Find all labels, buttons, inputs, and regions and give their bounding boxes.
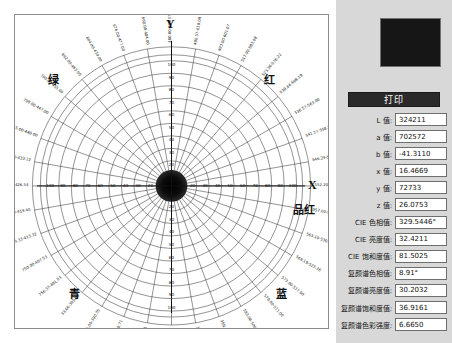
measurement-field-row: y 值:72733	[336, 180, 452, 195]
measurement-field-label: y 值:	[336, 183, 395, 193]
polar-chart-panel: 1020304050607080901001020304050607080901…	[14, 14, 329, 329]
svg-text:530.64-568.19: 530.64-568.19	[279, 72, 304, 94]
svg-text:589.53-500.00: 589.53-500.00	[220, 319, 235, 328]
measurement-field-list: L 值:324211a 值:702572b 值:-41.3110x 值:16.4…	[336, 112, 452, 334]
measurement-field-value[interactable]: 30.2032	[395, 284, 447, 297]
measurement-field-row: z 值:26.0753	[336, 197, 452, 212]
measurement-field-value[interactable]: 324211	[395, 113, 447, 126]
measurement-field-row: 复颜谱色彩强度:6.6650	[336, 317, 452, 332]
measurement-field-label: x 值:	[336, 166, 395, 176]
svg-text:594.67-759.61: 594.67-759.61	[138, 326, 148, 328]
color-swatch	[380, 18, 441, 67]
svg-text:594.00-780.71: 594.00-780.71	[109, 318, 124, 328]
svg-text:536.57-563.00: 536.57-563.00	[293, 96, 321, 115]
measurement-field-label: CIE 饱和度值:	[336, 251, 395, 261]
svg-text:546.29-552.67: 546.29-552.67	[312, 152, 328, 162]
measurement-field-value[interactable]: 81.5025	[395, 250, 447, 263]
svg-text:715.00-440.00: 715.00-440.00	[15, 123, 39, 138]
svg-text:486.57-610.09: 486.57-610.09	[192, 16, 202, 45]
svg-text:541.17-558.25: 541.17-558.25	[305, 123, 328, 138]
svg-text:756.37-401.53: 756.37-401.53	[38, 275, 63, 297]
quadrant-label-magenta: 品红	[293, 201, 315, 217]
measurement-field-value[interactable]: 329.5446°	[395, 216, 447, 229]
svg-text:517.90-583.08: 517.90-583.08	[240, 35, 259, 63]
measurement-field-label: 复颜谱色相值:	[336, 268, 395, 278]
svg-text:743.33-413.32: 743.33-413.32	[15, 231, 38, 246]
svg-text:563.19-530.02: 563.19-530.02	[306, 231, 328, 246]
measurement-field-row: CIE 色相值:329.5446°	[336, 215, 452, 230]
measurement-field-value[interactable]: 72733	[395, 181, 447, 194]
quadrant-label-green: 绿	[48, 71, 59, 87]
measurement-field-label: a 值:	[336, 132, 395, 142]
svg-text:568.19-523.36: 568.19-523.36	[295, 254, 323, 273]
quadrant-label-red: 红	[264, 71, 275, 87]
x-axis-label: X	[308, 178, 317, 193]
measurement-field-value[interactable]: -41.3110	[395, 147, 447, 160]
svg-text:766.00-390.35: 766.00-390.35	[82, 307, 101, 328]
svg-text:722.00-433.12: 722.00-433.12	[15, 152, 32, 162]
measurement-field-value[interactable]: 6.6650	[395, 318, 447, 331]
svg-text:594.67-493.00: 594.67-493.00	[195, 326, 205, 328]
color-analysis-window: 1020304050607080901001020304050607080901…	[0, 0, 452, 343]
measurement-field-row: L 值:324211	[336, 112, 452, 127]
svg-text:668.00-484.00: 668.00-484.00	[141, 16, 151, 45]
measurement-field-row: 复颜谱饱和度值:36.9161	[336, 300, 452, 315]
measurement-field-value[interactable]: 16.4669	[395, 164, 447, 177]
svg-text:750.00-407.53: 750.00-407.53	[21, 254, 49, 273]
quadrant-label-blue: 蓝	[276, 285, 287, 301]
measurement-field-label: CIE 色相值:	[336, 217, 395, 227]
svg-text:493.00-601.07: 493.00-601.07	[217, 23, 232, 52]
measurement-field-label: z 值:	[336, 200, 395, 210]
measurement-field-row: CIE 饱和度值:81.5025	[336, 249, 452, 264]
measurement-field-row: x 值:16.4669	[336, 163, 452, 178]
measurement-field-value[interactable]: 8.91°	[395, 267, 447, 280]
svg-text:692.00-463.00: 692.00-463.00	[60, 52, 82, 77]
measurement-field-row: 复颜谱色相值:8.91°	[336, 266, 452, 281]
svg-text:735.00-419.40: 735.00-419.40	[15, 207, 31, 217]
measurement-field-value[interactable]: 702572	[395, 130, 447, 143]
quadrant-label-cyan: 青	[69, 285, 80, 301]
measurement-field-label: 复颜谱饱和度值:	[336, 303, 395, 313]
measurement-field-label: 复颜谱亮度值:	[336, 285, 395, 295]
measurement-field-row: 复颜谱亮度值:30.2032	[336, 283, 452, 298]
polar-chart-svg: 1020304050607080901001020304050607080901…	[15, 15, 328, 328]
measurement-field-row: b 值:-41.3110	[336, 146, 452, 161]
svg-text:583.08-506.00: 583.08-506.00	[242, 308, 261, 328]
measurement-field-label: 复颜谱色彩强度:	[336, 320, 395, 330]
y-axis-label: Y	[166, 17, 175, 32]
measurement-field-row: CIE 亮度值:32.4211	[336, 232, 452, 247]
measurement-field-label: CIE 亮度值:	[336, 234, 395, 244]
measurement-field-label: L 值:	[336, 115, 395, 125]
measurement-field-label: b 值:	[336, 149, 395, 159]
svg-text:728.51-426.54: 728.51-426.54	[15, 182, 29, 187]
measurement-field-value[interactable]: 26.0753	[395, 198, 447, 211]
svg-text:676.00-477.00: 676.00-477.00	[112, 23, 127, 52]
readout-side-panel: 打印 L 值:324211a 值:702572b 值:-41.3110x 值:1…	[336, 0, 452, 343]
measurement-field-value[interactable]: 32.4211	[395, 233, 447, 246]
svg-text:708.00-447.00: 708.00-447.00	[22, 97, 50, 116]
print-button[interactable]: 打印	[348, 92, 440, 107]
measurement-field-value[interactable]: 36.9161	[395, 301, 447, 314]
measurement-field-row: a 值:702572	[336, 129, 452, 144]
svg-text:684.00-470.00: 684.00-470.00	[85, 35, 104, 63]
